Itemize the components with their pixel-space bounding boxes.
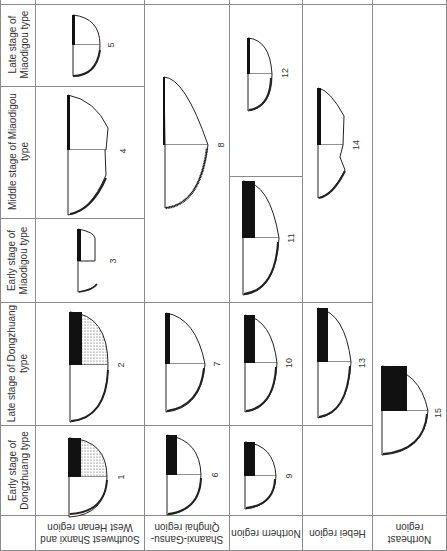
vessel-6-icon	[166, 435, 201, 515]
vessel-11-icon	[242, 181, 279, 295]
vessel-number: 9	[284, 473, 294, 478]
vessel-3-icon	[77, 229, 97, 292]
vessel-number: 7	[212, 361, 222, 366]
vessel-12-icon	[247, 38, 272, 111]
vessel-1-icon	[68, 438, 107, 517]
vessel-number: 6	[210, 472, 220, 477]
vessel-number: 14	[351, 140, 361, 150]
vessel-7-icon	[165, 313, 205, 412]
typology-table: Late stage of Miaodigou type Middle stag…	[0, 0, 447, 551]
vessel-4-icon	[67, 95, 108, 215]
vessel-15-icon	[381, 366, 428, 455]
vessel-drawings	[0, 0, 447, 551]
vessel-8-icon	[163, 77, 208, 208]
vessel-13-icon	[317, 308, 351, 418]
vessel-number: 15	[433, 408, 443, 418]
vessel-5-icon	[72, 15, 100, 76]
vessel-number: 4	[118, 148, 128, 153]
vessel-number: 11	[286, 233, 296, 242]
vessel-14-icon	[317, 88, 345, 198]
vessel-10-icon	[244, 315, 277, 412]
vessel-number: 8	[216, 142, 226, 147]
vessel-number: 2	[116, 362, 126, 367]
vessel-2-icon	[69, 312, 108, 422]
vessel-number: 12	[280, 68, 290, 78]
vessel-number: 10	[284, 358, 294, 368]
vessel-9-icon	[244, 442, 276, 509]
vessel-number: 3	[108, 258, 118, 263]
vessel-number: 13	[357, 358, 367, 368]
vessel-number: 5	[106, 42, 116, 47]
vessel-number: 1	[116, 474, 126, 479]
